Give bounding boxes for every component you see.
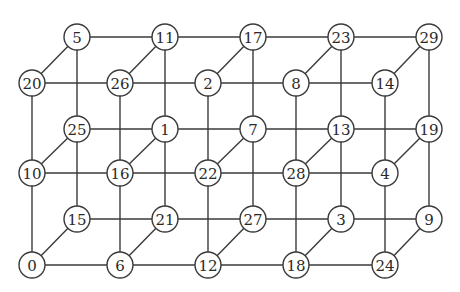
graph-node-23: 23 (328, 24, 354, 50)
node-label: 15 (67, 211, 86, 229)
node-label: 21 (155, 211, 174, 229)
graph-node-11: 11 (152, 24, 178, 50)
node-label: 18 (286, 257, 305, 275)
graph-node-1: 1 (152, 116, 178, 142)
node-label: 23 (331, 29, 350, 47)
node-label: 7 (248, 121, 258, 139)
grid-graph-diagram: 5111723292517131915212739202628141016222… (0, 0, 460, 292)
node-label: 5 (72, 29, 82, 47)
node-label: 11 (155, 29, 174, 47)
graph-node-21: 21 (152, 206, 178, 232)
node-label: 27 (243, 211, 262, 229)
node-label: 0 (27, 257, 37, 275)
graph-node-20: 20 (19, 70, 45, 96)
node-label: 8 (291, 75, 301, 93)
graph-node-10: 10 (19, 160, 45, 186)
node-label: 3 (336, 211, 346, 229)
graph-node-7: 7 (240, 116, 266, 142)
graph-node-6: 6 (107, 252, 133, 278)
graph-node-3: 3 (328, 206, 354, 232)
edges-layer (32, 37, 429, 265)
graph-node-5: 5 (64, 24, 90, 50)
graph-node-13: 13 (328, 116, 354, 142)
graph-node-22: 22 (195, 160, 221, 186)
graph-node-2: 2 (195, 70, 221, 96)
graph-node-24: 24 (372, 252, 398, 278)
graph-node-12: 12 (195, 252, 221, 278)
graph-node-8: 8 (283, 70, 309, 96)
node-label: 20 (22, 75, 41, 93)
graph-node-9: 9 (416, 206, 442, 232)
graph-node-18: 18 (283, 252, 309, 278)
graph-node-28: 28 (283, 160, 309, 186)
graph-node-14: 14 (372, 70, 398, 96)
graph-node-0: 0 (19, 252, 45, 278)
graph-node-15: 15 (64, 206, 90, 232)
node-label: 17 (243, 29, 262, 47)
graph-node-26: 26 (107, 70, 133, 96)
graph-node-25: 25 (64, 116, 90, 142)
graph-node-29: 29 (416, 24, 442, 50)
node-label: 1 (160, 121, 170, 139)
node-label: 22 (198, 165, 217, 183)
graph-node-17: 17 (240, 24, 266, 50)
node-label: 4 (380, 165, 390, 183)
node-label: 13 (331, 121, 350, 139)
graph-node-16: 16 (107, 160, 133, 186)
graph-node-19: 19 (416, 116, 442, 142)
node-label: 10 (22, 165, 41, 183)
node-label: 16 (110, 165, 129, 183)
node-label: 19 (419, 121, 438, 139)
node-label: 24 (375, 257, 394, 275)
node-label: 28 (286, 165, 305, 183)
node-label: 29 (419, 29, 438, 47)
node-label: 9 (424, 211, 434, 229)
node-label: 26 (110, 75, 129, 93)
node-label: 6 (115, 257, 125, 275)
graph-node-4: 4 (372, 160, 398, 186)
node-label: 14 (375, 75, 394, 93)
graph-node-27: 27 (240, 206, 266, 232)
node-label: 2 (203, 75, 213, 93)
node-label: 12 (198, 257, 217, 275)
node-label: 25 (67, 121, 86, 139)
